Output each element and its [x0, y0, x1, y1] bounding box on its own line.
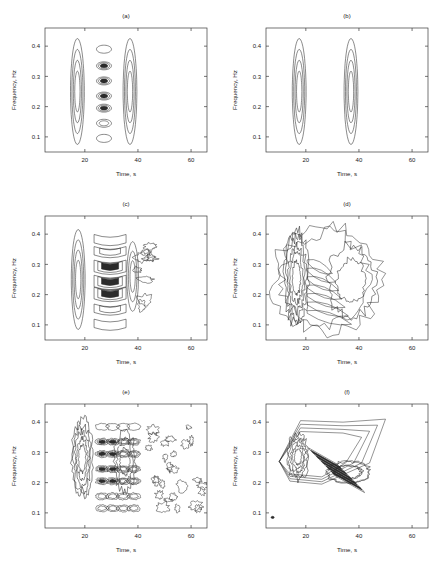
cross-term-contour — [98, 506, 107, 511]
cross-term-contour — [94, 234, 126, 245]
y-tick-label: 0.3 — [253, 450, 262, 456]
cross-term-contour — [143, 242, 157, 250]
contour-group — [71, 415, 211, 513]
cross-term-contour — [188, 500, 204, 510]
cross-term-contour — [96, 505, 110, 512]
cross-term-contour — [120, 452, 127, 456]
x-tick-label: 20 — [302, 157, 309, 163]
panel-title: (d) — [343, 201, 350, 207]
cross-term-contour — [130, 494, 139, 498]
panel-title: (e) — [122, 389, 129, 395]
x-tick-label: 40 — [135, 157, 142, 163]
y-tick-label: 0.2 — [32, 292, 41, 298]
auto-term-contour — [292, 260, 301, 296]
y-tick-label: 0.1 — [32, 322, 41, 328]
y-axis-label: Frequency, Hz — [231, 258, 238, 298]
auto-term-contour — [294, 449, 301, 466]
cross-term-contour — [97, 134, 112, 142]
y-tick-label: 0.2 — [32, 480, 41, 486]
x-axis-label: Time, s — [116, 170, 136, 177]
cross-term-contour — [165, 436, 177, 442]
cross-term-contour — [194, 505, 201, 513]
cross-term-contour — [102, 263, 119, 271]
cross-term-contour — [137, 293, 152, 306]
cross-term-contour — [307, 268, 335, 283]
cross-term-contour — [97, 119, 112, 127]
x-axis-label: Time, s — [116, 358, 136, 365]
x-axis-label: Time, s — [337, 170, 357, 177]
cross-term-contour — [127, 423, 141, 430]
y-tick-label: 0.1 — [253, 510, 262, 516]
auto-term-contour — [292, 39, 306, 145]
x-tick-label: 20 — [81, 345, 88, 351]
cross-term-contour — [127, 492, 141, 499]
panel-title: (f) — [344, 389, 350, 395]
y-tick-label: 0.4 — [32, 231, 41, 237]
cross-term-contour — [109, 467, 116, 471]
auto-term-contour — [128, 251, 137, 302]
cross-term-contour — [97, 45, 112, 53]
cross-term-contour — [99, 121, 108, 126]
cross-term-contour — [120, 467, 127, 471]
auto-term-contour — [326, 241, 378, 320]
x-tick-label: 40 — [356, 157, 363, 163]
y-tick-label: 0.2 — [253, 292, 262, 298]
cross-term-contour — [307, 259, 332, 274]
cross-term-contour — [181, 439, 190, 449]
cross-term-contour — [196, 483, 210, 489]
cross-term-contour — [186, 425, 192, 430]
y-tick-label: 0.4 — [253, 43, 262, 49]
auto-term-contour — [78, 444, 86, 474]
cross-term-contour — [94, 319, 126, 330]
x-tick-label: 40 — [135, 345, 142, 351]
y-tick-label: 0.4 — [32, 419, 41, 425]
cross-term-contour — [269, 221, 385, 338]
cross-term-contour — [99, 452, 106, 456]
y-axis-label: Frequency, Hz — [10, 70, 17, 110]
auto-term-contour — [290, 251, 304, 305]
y-axis-label: Frequency, Hz — [231, 70, 238, 110]
contour-group — [292, 39, 358, 145]
x-tick-label: 40 — [356, 533, 363, 539]
panel-d: (d)2040600.10.20.30.4Time, sFrequency, H… — [221, 188, 442, 376]
y-tick-label: 0.2 — [32, 104, 41, 110]
cross-term-contour — [146, 424, 159, 435]
y-tick-label: 0.3 — [32, 262, 41, 268]
cross-term-contour — [99, 440, 106, 444]
x-tick-label: 40 — [135, 533, 142, 539]
cross-term-contour — [192, 477, 202, 483]
x-axis-label: Time, s — [116, 546, 136, 553]
cross-term-contour — [99, 479, 106, 483]
cross-term-contour — [100, 64, 108, 68]
y-tick-label: 0.2 — [253, 480, 262, 486]
x-tick-label: 60 — [409, 533, 416, 539]
cross-term-contour — [100, 79, 108, 83]
cross-term-contour — [120, 479, 127, 483]
cross-term-contour — [100, 94, 108, 98]
cross-term-contour — [307, 310, 351, 325]
cross-term-contour — [119, 506, 128, 511]
y-axis-label: Frequency, Hz — [10, 446, 17, 486]
x-tick-label: 40 — [356, 345, 363, 351]
cross-term-contour — [145, 445, 153, 451]
y-tick-label: 0.3 — [32, 450, 41, 456]
y-tick-label: 0.1 — [253, 322, 262, 328]
x-tick-label: 20 — [302, 345, 309, 351]
cross-term-contour — [120, 440, 127, 444]
auto-term-contour — [75, 71, 80, 112]
cross-term-contour — [109, 479, 116, 483]
auto-term-contour — [335, 257, 366, 302]
cross-term-contour — [271, 516, 274, 518]
cross-term-contour — [151, 476, 159, 483]
x-tick-label: 60 — [409, 157, 416, 163]
auto-term-contour — [76, 436, 88, 481]
y-tick-label: 0.2 — [253, 104, 262, 110]
cross-term-contour — [100, 106, 108, 110]
panel-c: (c)2040600.10.20.30.4Time, sFrequency, H… — [0, 188, 221, 376]
panel-title: (a) — [122, 13, 129, 19]
cross-term-contour — [133, 266, 142, 273]
auto-term-contour — [127, 71, 132, 112]
cross-term-contour — [163, 454, 168, 463]
y-axis-label: Frequency, Hz — [10, 258, 17, 298]
contour-group — [271, 419, 386, 518]
